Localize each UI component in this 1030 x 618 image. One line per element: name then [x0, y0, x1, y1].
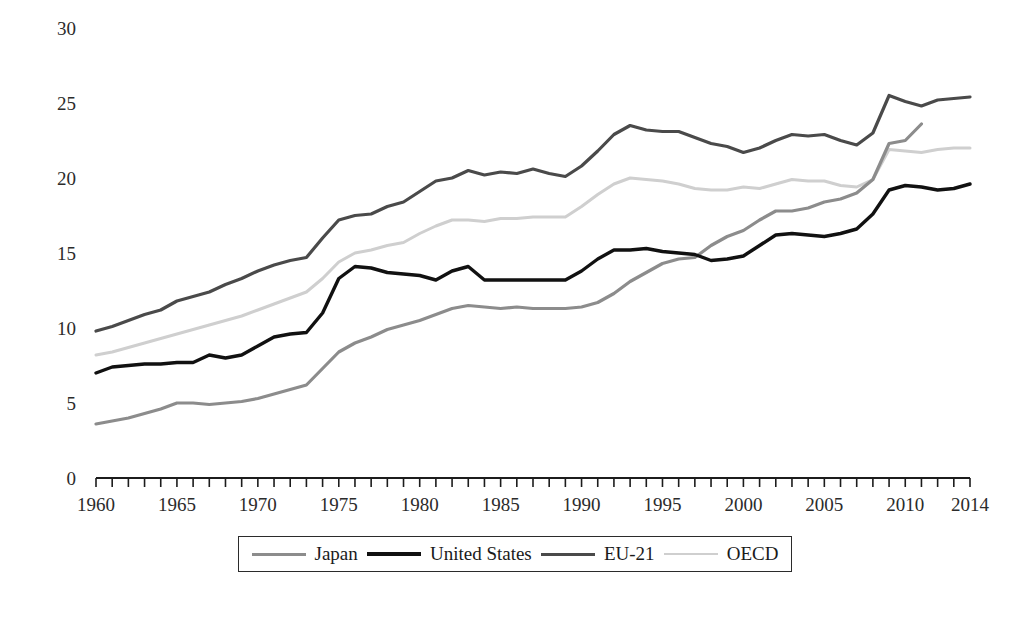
x-tick-label-1985: 1985: [482, 494, 520, 515]
x-axis-line-group: [96, 478, 970, 487]
series-group: [96, 96, 970, 425]
x-tick-label-1990: 1990: [563, 494, 601, 515]
y-tick-label-25: 25: [57, 93, 76, 114]
x-tick-label-1970: 1970: [239, 494, 277, 515]
legend-swatch-icon: [664, 553, 718, 555]
legend-swatch-icon: [252, 553, 306, 556]
legend-entry-oecd[interactable]: OECD: [664, 543, 779, 565]
x-tick-label-1975: 1975: [320, 494, 358, 515]
y-tick-label-20: 20: [57, 168, 76, 189]
x-tick-label-1980: 1980: [401, 494, 439, 515]
series-line-oecd: [96, 148, 970, 355]
x-tick-label-2014: 2014: [951, 494, 990, 515]
x-tick-label-2010: 2010: [886, 494, 924, 515]
legend-label: United States: [430, 543, 532, 565]
legend-entry-eu-21[interactable]: EU-21: [541, 543, 655, 565]
legend-entry-united-states[interactable]: United States: [367, 543, 532, 565]
x-axis-tick-labels: 1960196519701975198019851990199520002005…: [77, 494, 990, 515]
y-tick-label-10: 10: [57, 318, 76, 339]
series-line-eu-21: [96, 96, 970, 332]
chart-legend: JapanUnited StatesEU-21OECD: [238, 536, 792, 572]
x-tick-label-1960: 1960: [77, 494, 115, 515]
chart-canvas: 051015202530 196019651970197519801985199…: [0, 0, 1030, 618]
x-tick-label-1995: 1995: [643, 494, 681, 515]
y-axis-tick-labels: 051015202530: [57, 18, 76, 489]
y-tick-label-0: 0: [67, 468, 77, 489]
legend-label: OECD: [727, 543, 779, 565]
series-line-japan: [96, 124, 921, 424]
y-tick-label-5: 5: [67, 393, 77, 414]
legend-swatch-icon: [367, 552, 421, 556]
legend-swatch-icon: [541, 553, 595, 556]
y-tick-label-15: 15: [57, 243, 76, 264]
x-tick-label-2000: 2000: [724, 494, 762, 515]
legend-label: EU-21: [604, 543, 655, 565]
legend-entry-japan[interactable]: Japan: [252, 543, 358, 565]
x-tick-label-1965: 1965: [158, 494, 196, 515]
y-tick-label-30: 30: [57, 18, 76, 39]
line-chart: 051015202530 196019651970197519801985199…: [0, 0, 1030, 618]
legend-label: Japan: [315, 543, 358, 565]
x-tick-label-2005: 2005: [805, 494, 843, 515]
series-line-united-states: [96, 184, 970, 373]
